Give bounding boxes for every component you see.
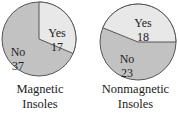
pie1-caption: Magnetic Insoles — [0, 82, 80, 112]
pie1-yes-label: Yes — [42, 27, 72, 39]
pie1-no-value: 37 — [3, 60, 33, 72]
pie2-yes-value: 18 — [128, 31, 158, 43]
pie2-caption: Nonmagnetic Insoles — [93, 82, 178, 112]
pie2-yes-label: Yes — [128, 17, 158, 29]
pie1-no-label: No — [3, 46, 33, 58]
pie2-no-label: No — [112, 53, 142, 65]
pie2-no-value: 23 — [112, 67, 142, 79]
pie1-yes-value: 17 — [42, 41, 72, 53]
